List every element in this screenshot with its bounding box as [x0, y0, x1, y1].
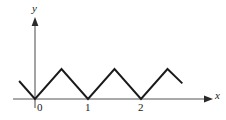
x-tick-label-0: 0 — [37, 102, 43, 113]
graph-canvas — [0, 0, 226, 120]
x-tick-label-2: 2 — [138, 102, 144, 113]
y-axis-label: y — [32, 3, 37, 14]
graph-figure: y x 0 1 2 — [0, 0, 226, 120]
triangular-wave-curve — [19, 69, 182, 99]
x-axis-label: x — [215, 90, 220, 101]
x-tick-label-1: 1 — [85, 102, 91, 113]
y-axis-arrowhead — [32, 17, 39, 26]
x-axis-arrowhead — [204, 96, 213, 103]
